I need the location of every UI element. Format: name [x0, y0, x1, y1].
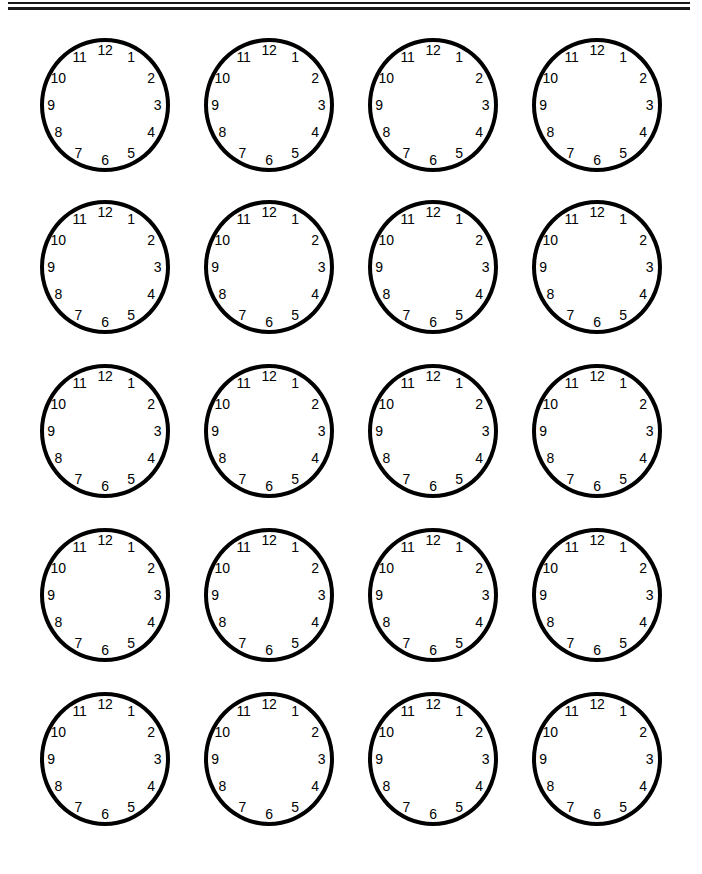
clock-face-1[interactable]: 121234567891011: [40, 38, 170, 172]
clock-face-13[interactable]: 121234567891011: [40, 528, 170, 662]
clock-face-18[interactable]: 121234567891011: [204, 692, 334, 826]
clock-numeral-2: 2: [639, 561, 647, 575]
clock-numeral-1: 1: [619, 50, 627, 64]
clock-numeral-1: 1: [127, 540, 135, 554]
clock-numeral-12: 12: [97, 533, 112, 547]
clock-numeral-7: 7: [75, 146, 83, 160]
clock-face-15[interactable]: 121234567891011: [368, 528, 498, 662]
clock-numeral-2: 2: [147, 561, 155, 575]
clock-numeral-8: 8: [54, 615, 62, 629]
clock-face-2[interactable]: 121234567891011: [204, 38, 334, 172]
clock-face-4[interactable]: 121234567891011: [532, 38, 662, 172]
clock-numeral-10: 10: [215, 397, 230, 411]
clock-face-10[interactable]: 121234567891011: [204, 364, 334, 498]
clock-numeral-1: 1: [127, 50, 135, 64]
clock-numeral-5: 5: [455, 146, 463, 160]
clock-numeral-11: 11: [73, 704, 87, 718]
clock-face-9[interactable]: 121234567891011: [40, 364, 170, 498]
clock-numeral-11: 11: [237, 704, 251, 718]
clock-numeral-9: 9: [211, 752, 219, 766]
clock-numeral-10: 10: [379, 397, 394, 411]
clock-numeral-4: 4: [639, 125, 647, 139]
clock-numeral-10: 10: [543, 71, 558, 85]
clock-face-11[interactable]: 121234567891011: [368, 364, 498, 498]
clock-numeral-8: 8: [218, 615, 226, 629]
clock-numeral-2: 2: [147, 725, 155, 739]
clock-numeral-3: 3: [482, 260, 490, 274]
clock-numeral-11: 11: [401, 704, 415, 718]
clock-numeral-3: 3: [318, 752, 326, 766]
clock-numeral-9: 9: [375, 260, 383, 274]
clock-numeral-6: 6: [265, 153, 273, 167]
clock-numeral-3: 3: [482, 424, 490, 438]
clock-numeral-10: 10: [215, 561, 230, 575]
clock-numeral-4: 4: [639, 287, 647, 301]
clock-numeral-12: 12: [589, 533, 604, 547]
clock-numeral-8: 8: [546, 451, 554, 465]
clock-numeral-4: 4: [475, 125, 483, 139]
clock-numeral-2: 2: [639, 397, 647, 411]
clock-numeral-3: 3: [318, 98, 326, 112]
clock-numeral-3: 3: [646, 588, 654, 602]
clock-face-8[interactable]: 121234567891011: [532, 200, 662, 334]
clock-numeral-12: 12: [425, 369, 440, 383]
clock-numeral-8: 8: [54, 125, 62, 139]
clock-numeral-4: 4: [475, 615, 483, 629]
clock-numeral-10: 10: [379, 233, 394, 247]
clock-face-12[interactable]: 121234567891011: [532, 364, 662, 498]
clock-numeral-7: 7: [75, 636, 83, 650]
clock-numeral-11: 11: [401, 376, 415, 390]
clock-numeral-2: 2: [639, 725, 647, 739]
clock-numeral-12: 12: [97, 369, 112, 383]
clock-numeral-8: 8: [218, 779, 226, 793]
clock-numeral-9: 9: [47, 98, 55, 112]
clock-numeral-10: 10: [543, 397, 558, 411]
clock-numeral-5: 5: [619, 800, 627, 814]
clock-numeral-6: 6: [101, 315, 109, 329]
clock-numeral-6: 6: [593, 807, 601, 821]
clock-numeral-3: 3: [154, 752, 162, 766]
clock-numeral-8: 8: [218, 451, 226, 465]
clock-face-7[interactable]: 121234567891011: [368, 200, 498, 334]
clock-numeral-8: 8: [546, 287, 554, 301]
clock-numeral-2: 2: [311, 397, 319, 411]
clock-numeral-8: 8: [382, 779, 390, 793]
clock-numeral-9: 9: [539, 98, 547, 112]
clock-numeral-11: 11: [237, 376, 251, 390]
clock-numeral-9: 9: [375, 752, 383, 766]
clock-numeral-12: 12: [97, 43, 112, 57]
clock-face-14[interactable]: 121234567891011: [204, 528, 334, 662]
clock-face-17[interactable]: 121234567891011: [40, 692, 170, 826]
clock-face-16[interactable]: 121234567891011: [532, 528, 662, 662]
clock-numeral-9: 9: [539, 260, 547, 274]
clock-numeral-10: 10: [379, 725, 394, 739]
clock-numeral-9: 9: [539, 752, 547, 766]
clock-face-19[interactable]: 121234567891011: [368, 692, 498, 826]
clock-numeral-4: 4: [311, 451, 319, 465]
clock-numeral-12: 12: [97, 697, 112, 711]
clock-numeral-9: 9: [47, 424, 55, 438]
clock-numeral-6: 6: [593, 643, 601, 657]
clock-face-3[interactable]: 121234567891011: [368, 38, 498, 172]
clock-numeral-10: 10: [51, 561, 66, 575]
clock-numeral-8: 8: [54, 287, 62, 301]
clock-numeral-10: 10: [543, 233, 558, 247]
clock-numeral-3: 3: [482, 98, 490, 112]
clock-numeral-10: 10: [51, 725, 66, 739]
clock-numeral-9: 9: [47, 752, 55, 766]
clock-numeral-8: 8: [546, 779, 554, 793]
clock-numeral-5: 5: [127, 636, 135, 650]
clock-numeral-11: 11: [565, 540, 579, 554]
clock-numeral-2: 2: [639, 71, 647, 85]
clock-face-6[interactable]: 121234567891011: [204, 200, 334, 334]
clock-numeral-1: 1: [127, 376, 135, 390]
clock-numeral-12: 12: [261, 533, 276, 547]
clock-numeral-9: 9: [47, 588, 55, 602]
clock-face-5[interactable]: 121234567891011: [40, 200, 170, 334]
clock-numeral-7: 7: [403, 800, 411, 814]
clock-numeral-1: 1: [619, 704, 627, 718]
clock-numeral-6: 6: [429, 643, 437, 657]
clock-face-20[interactable]: 121234567891011: [532, 692, 662, 826]
clock-numeral-6: 6: [429, 479, 437, 493]
clock-numeral-12: 12: [589, 697, 604, 711]
